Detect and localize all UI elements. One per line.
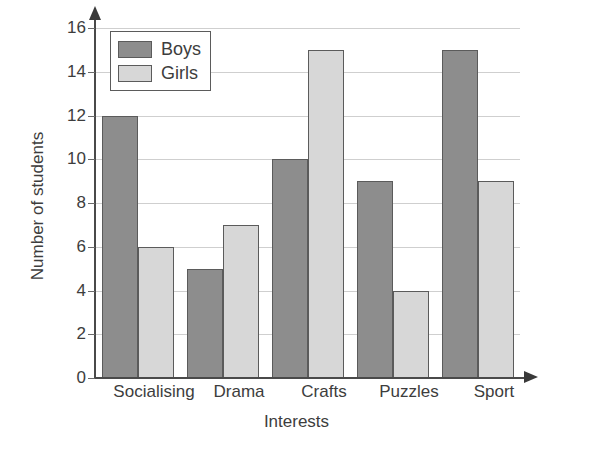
y-axis-arrow-icon bbox=[89, 6, 101, 20]
y-tick-label: 2 bbox=[16, 325, 86, 342]
y-tick-label: 4 bbox=[16, 282, 86, 299]
legend-label-girls: Girls bbox=[161, 64, 198, 82]
y-tick bbox=[88, 203, 95, 204]
bar-drama-girls bbox=[223, 225, 259, 378]
y-tick-label: 10 bbox=[16, 150, 86, 167]
gridline bbox=[95, 28, 520, 29]
y-tick-label: 16 bbox=[16, 19, 86, 36]
legend-entry-girls: Girls bbox=[118, 61, 201, 85]
legend-entry-boys: Boys bbox=[118, 37, 201, 61]
bar-puzzles-girls bbox=[393, 291, 429, 379]
bar-puzzles-boys bbox=[357, 181, 393, 378]
y-tick-label: 14 bbox=[16, 63, 86, 80]
chart-legend: Boys Girls bbox=[110, 31, 211, 91]
bar-socialising-boys bbox=[102, 116, 138, 379]
bar-sport-girls bbox=[478, 181, 514, 378]
y-axis-title: Number of students bbox=[28, 81, 48, 331]
y-tick-label: 6 bbox=[16, 238, 86, 255]
y-tick bbox=[88, 291, 95, 292]
y-tick bbox=[88, 159, 95, 160]
x-tick-label-sport: Sport bbox=[419, 382, 569, 402]
legend-swatch-girls-icon bbox=[118, 65, 152, 82]
y-tick bbox=[88, 334, 95, 335]
y-tick bbox=[88, 28, 95, 29]
x-axis-line bbox=[94, 377, 526, 379]
legend-label-boys: Boys bbox=[161, 40, 201, 58]
bar-sport-boys bbox=[442, 50, 478, 378]
bar-chart: 0 2 4 6 8 10 12 14 16 Number of students… bbox=[0, 0, 593, 453]
legend-swatch-boys-icon bbox=[118, 41, 152, 58]
x-axis-title: Interests bbox=[0, 412, 593, 432]
bar-drama-boys bbox=[187, 269, 223, 378]
bar-crafts-boys bbox=[272, 159, 308, 378]
y-tick-label: 8 bbox=[16, 194, 86, 211]
y-tick bbox=[88, 72, 95, 73]
y-tick bbox=[88, 378, 95, 379]
y-tick bbox=[88, 247, 95, 248]
bar-socialising-girls bbox=[138, 247, 174, 378]
y-tick-label: 12 bbox=[16, 107, 86, 124]
y-tick bbox=[88, 116, 95, 117]
y-tick-label: 0 bbox=[16, 369, 86, 386]
bar-crafts-girls bbox=[308, 50, 344, 378]
